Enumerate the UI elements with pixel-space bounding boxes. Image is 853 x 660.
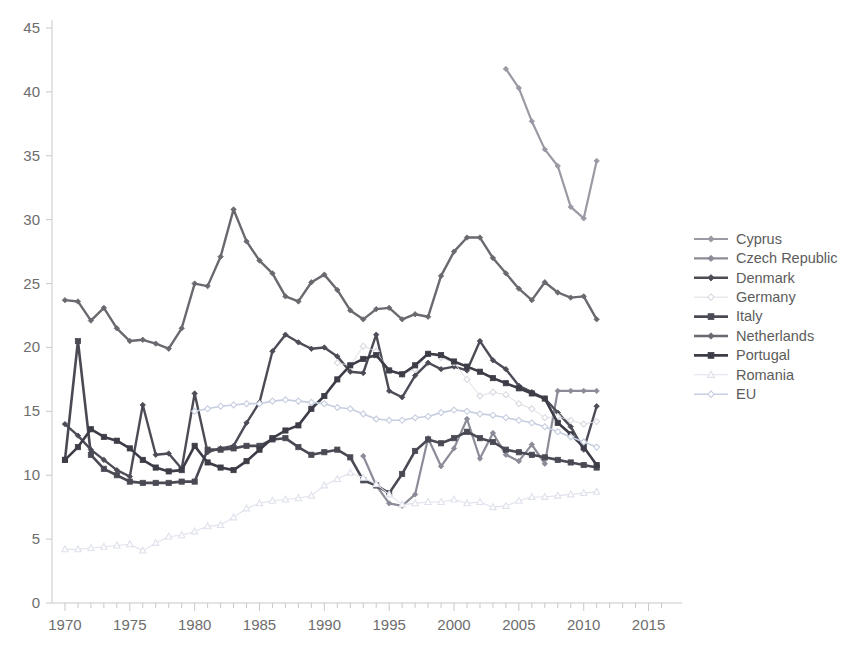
legend-item-germany[interactable]: Germany (694, 289, 796, 305)
x-tick-label: 1970 (48, 616, 81, 633)
data-point-marker (347, 406, 353, 412)
data-point-marker (413, 448, 418, 453)
data-point-marker (269, 398, 275, 404)
data-point-marker (244, 401, 250, 407)
data-point-marker (490, 439, 495, 444)
data-point-marker (114, 438, 119, 443)
data-point-marker (296, 423, 301, 428)
data-point-marker (542, 415, 548, 421)
x-tick-label: 1975 (113, 616, 146, 633)
data-point-marker (451, 436, 456, 441)
data-point-marker (464, 364, 469, 369)
data-point-marker (708, 314, 714, 320)
data-point-marker (166, 469, 171, 474)
data-point-marker (127, 446, 132, 451)
data-point-marker (425, 437, 430, 442)
series-line (506, 69, 597, 219)
data-point-marker (308, 492, 314, 498)
data-point-marker (542, 455, 547, 460)
data-point-marker (348, 363, 353, 368)
data-point-marker (451, 407, 457, 413)
legend-item-italy[interactable]: Italy (694, 308, 763, 324)
data-point-marker (244, 459, 249, 464)
data-point-marker (594, 462, 599, 467)
data-point-marker (594, 444, 600, 450)
data-point-marker (555, 388, 560, 393)
data-point-marker (412, 415, 418, 421)
data-point-marker (568, 388, 573, 393)
data-point-marker (360, 411, 366, 417)
data-point-marker (295, 398, 301, 404)
data-point-marker (257, 447, 262, 452)
data-point-marker (88, 427, 93, 432)
data-point-marker (218, 447, 223, 452)
data-point-marker (490, 376, 495, 381)
data-point-marker (309, 406, 314, 411)
data-point-marker (542, 424, 548, 430)
data-point-marker (334, 405, 340, 411)
legend-label: Romania (736, 367, 795, 383)
data-point-marker (708, 333, 714, 339)
data-point-marker (438, 441, 443, 446)
data-point-marker (529, 406, 535, 412)
data-point-marker (594, 388, 599, 393)
data-point-marker (708, 391, 714, 397)
data-point-marker (374, 353, 379, 358)
legend-item-cyprus[interactable]: Cyprus (694, 231, 782, 247)
data-point-marker (322, 393, 327, 398)
legend-item-portugal[interactable]: Portugal (694, 347, 790, 363)
x-tick-label: 2010 (567, 616, 600, 633)
legend-label: Germany (736, 289, 796, 305)
legend-label: Portugal (736, 347, 790, 363)
data-point-marker (555, 429, 561, 435)
data-point-marker (153, 452, 158, 457)
data-point-marker (581, 421, 587, 427)
data-point-marker (192, 443, 197, 448)
legend-label: Netherlands (736, 328, 814, 344)
data-point-marker (708, 275, 714, 281)
data-point-marker (62, 457, 67, 462)
y-tick-label: 35 (23, 147, 40, 164)
data-point-marker (153, 465, 158, 470)
data-point-marker (477, 369, 482, 374)
data-point-marker (335, 377, 340, 382)
data-point-marker (438, 353, 443, 358)
legend-item-denmark[interactable]: Denmark (694, 270, 796, 286)
chart-legend: CyprusCzech RepublicDenmarkGermanyItalyN… (694, 231, 838, 402)
line-chart: 051015202530354045 197019751980198519901… (0, 0, 853, 660)
chart-container: 051015202530354045 197019751980198519901… (0, 0, 853, 660)
data-point-marker (348, 455, 353, 460)
data-point-marker (296, 445, 301, 450)
data-point-marker (568, 417, 574, 423)
data-point-marker (477, 411, 483, 417)
legend-item-netherlands[interactable]: Netherlands (694, 328, 814, 344)
data-point-marker (309, 452, 314, 457)
legend-item-romania[interactable]: Romania (694, 367, 795, 383)
data-point-marker (166, 480, 171, 485)
data-point-marker (438, 410, 444, 416)
data-point-marker (503, 447, 508, 452)
series-line (65, 209, 597, 348)
data-point-marker (425, 413, 431, 419)
legend-item-czech-republic[interactable]: Czech Republic (694, 250, 838, 266)
legend-label: EU (736, 386, 756, 402)
data-point-marker (335, 447, 340, 452)
data-point-marker (708, 236, 714, 242)
data-point-marker (708, 294, 714, 300)
x-tick-label: 1990 (308, 616, 341, 633)
data-point-marker (477, 499, 483, 505)
data-point-marker (270, 436, 275, 441)
y-tick-label: 45 (23, 19, 40, 36)
data-point-marker (387, 368, 392, 373)
data-point-marker (192, 281, 197, 286)
y-tick-labels: 051015202530354045 (23, 19, 40, 611)
data-point-marker (282, 397, 288, 403)
data-point-marker (218, 465, 223, 470)
x-tick-label: 1995 (372, 616, 405, 633)
data-point-marker (503, 415, 509, 421)
data-point-marker (594, 419, 600, 425)
data-point-marker (529, 391, 534, 396)
series-eu (192, 397, 600, 450)
legend-label: Cyprus (736, 231, 782, 247)
legend-item-eu[interactable]: EU (694, 386, 756, 402)
